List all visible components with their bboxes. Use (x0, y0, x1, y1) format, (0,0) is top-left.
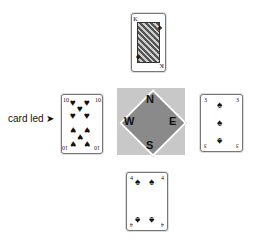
card-led-label: card led ➤ (8, 113, 54, 124)
spade-icon: ♠ (149, 177, 154, 187)
spade-icon: ♠ (158, 23, 162, 33)
spade-icon: ♠ (149, 215, 154, 225)
heart-icon: ♥ (77, 104, 83, 114)
east-card-rank-bottom: 3 (203, 143, 208, 149)
heart-icon: ♥ (84, 125, 90, 135)
spade-icon: ♠ (217, 136, 222, 146)
east-card: 3 3 3 3 ♠ ♠ ♠ (200, 94, 243, 152)
spade-icon: ♠ (135, 215, 140, 225)
south-label: S (146, 139, 153, 151)
south-card-rank-bottom-right: 4 (160, 222, 165, 228)
arrow-right-icon: ➤ (46, 113, 54, 124)
north-card-rank-bottom: K (159, 63, 164, 69)
north-card: K K ♠ ♠ (131, 13, 166, 72)
west-card-rank-right: 10 (95, 97, 100, 103)
king-face-icon (137, 22, 160, 63)
east-card-rank-bottom-right: 3 (235, 143, 240, 149)
east-card-rank: 3 (203, 97, 208, 103)
north-label: N (146, 93, 154, 105)
heart-icon: ♥ (70, 139, 76, 149)
south-card: 4 4 4 4 ♠ ♠ ♠ ♠ (126, 172, 168, 231)
heart-icon: ♥ (84, 111, 90, 121)
card-led-text: card led (8, 113, 44, 124)
south-card-rank-right: 4 (160, 175, 165, 181)
west-label: W (124, 115, 134, 127)
east-label: E (169, 115, 176, 127)
spade-icon: ♠ (217, 100, 222, 110)
west-card: 10 10 10 10 ♥ ♥ ♥ ♥ ♥ ♥ ♥ ♥ ♥ ♥ (61, 94, 103, 154)
west-card-rank: 10 (63, 97, 68, 103)
heart-icon: ♥ (70, 111, 76, 121)
east-card-rank-right: 3 (235, 97, 240, 103)
spade-icon: ♠ (217, 118, 222, 128)
south-card-rank: 4 (129, 175, 134, 181)
heart-icon: ♥ (70, 125, 76, 135)
spade-icon: ♠ (135, 177, 140, 187)
spade-icon: ♠ (136, 52, 140, 62)
heart-icon: ♥ (84, 139, 90, 149)
heart-icon: ♥ (84, 98, 90, 108)
heart-icon: ♥ (70, 98, 76, 108)
south-card-rank-bottom: 4 (129, 222, 134, 228)
west-card-rank-bottom: 10 (63, 145, 68, 151)
heart-icon: ♥ (77, 132, 83, 142)
west-card-rank-bottom-right: 10 (95, 145, 100, 151)
